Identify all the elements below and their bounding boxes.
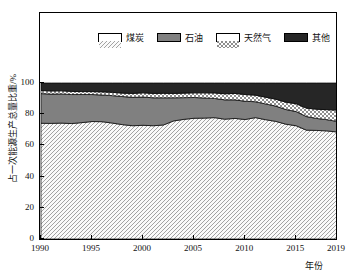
area-band-coal xyxy=(41,118,337,239)
legend-item-oil: 石油 xyxy=(157,31,203,44)
x-axis-title: 年份 xyxy=(305,259,323,272)
legend-swatch-natural-gas xyxy=(216,33,240,42)
chart-figure: 占一次能源生产总量比重/% 0 20 40 60 80 100 1990 199… xyxy=(0,0,352,279)
y-tick-label: 40 xyxy=(8,171,34,181)
x-tick-label: 2019 xyxy=(316,243,352,253)
x-tick-label: 2000 xyxy=(122,243,162,253)
x-tick-label: 2010 xyxy=(224,243,264,253)
y-tick-mark xyxy=(40,207,44,208)
x-tick-mark xyxy=(336,235,337,239)
x-tick-mark xyxy=(91,235,92,239)
legend-swatch-oil xyxy=(157,33,181,42)
x-tick-label: 2015 xyxy=(275,243,315,253)
legend-item-other: 其他 xyxy=(284,31,330,44)
stacked-area-plot xyxy=(40,13,336,239)
legend-label-coal: 煤炭 xyxy=(126,31,144,44)
x-tick-label: 1990 xyxy=(20,243,60,253)
x-tick-mark xyxy=(40,235,41,239)
stacked-area-svg xyxy=(40,13,337,240)
y-tick-label: 100 xyxy=(8,77,34,87)
y-tick-label: 60 xyxy=(8,139,34,149)
legend-item-natural-gas: 天然气 xyxy=(216,31,271,44)
x-tick-mark xyxy=(193,235,194,239)
y-tick-label: 20 xyxy=(8,202,34,212)
legend-pattern xyxy=(99,41,121,48)
chart-legend: 煤炭 石油 天然气 其他 xyxy=(98,31,330,44)
x-tick-mark xyxy=(295,235,296,239)
x-tick-label: 2005 xyxy=(173,243,213,253)
y-tick-mark xyxy=(40,82,44,83)
plot-area: 煤炭 石油 天然气 其他 xyxy=(39,12,337,240)
legend-swatch-other xyxy=(284,33,308,42)
y-axis-title: 占一次能源生产总量比重/% xyxy=(6,54,19,204)
y-tick-mark xyxy=(40,113,44,114)
y-tick-mark xyxy=(40,176,44,177)
legend-pattern xyxy=(217,41,239,48)
x-tick-mark xyxy=(142,235,143,239)
legend-label-natural-gas: 天然气 xyxy=(244,31,271,44)
legend-label-other: 其他 xyxy=(312,31,330,44)
legend-item-coal: 煤炭 xyxy=(98,31,144,44)
y-tick-label: 80 xyxy=(8,108,34,118)
legend-swatch-coal xyxy=(98,33,122,42)
x-tick-label: 1995 xyxy=(71,243,111,253)
x-tick-mark xyxy=(244,235,245,239)
y-tick-mark xyxy=(40,144,44,145)
legend-label-oil: 石油 xyxy=(185,31,203,44)
y-tick-label: 0 xyxy=(8,233,34,243)
